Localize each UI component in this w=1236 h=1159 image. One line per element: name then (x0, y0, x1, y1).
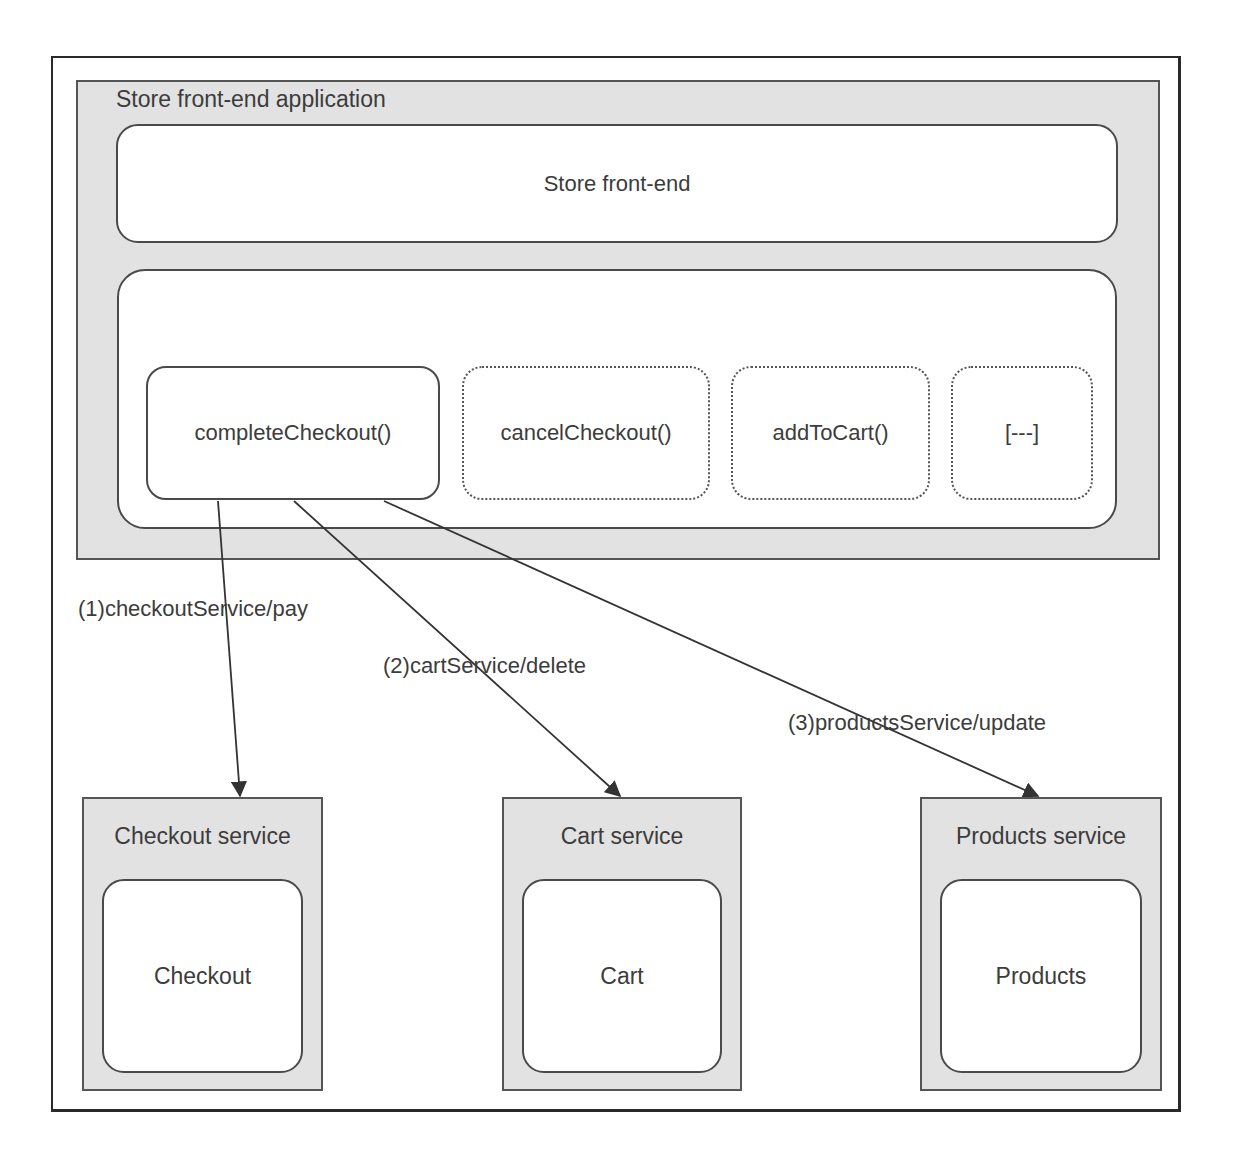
products-component: Products (940, 879, 1142, 1073)
products-service-box: Products service Products (920, 797, 1162, 1091)
function-label: [---] (1005, 420, 1039, 446)
store-frontend-box: Store front-end (116, 124, 1118, 243)
function-cancel-checkout: cancelCheckout() (462, 366, 710, 500)
app-container-title: Store front-end application (116, 86, 386, 113)
service-title: Checkout service (84, 823, 321, 850)
function-complete-checkout: completeCheckout() (146, 366, 440, 500)
cart-service-box: Cart service Cart (502, 797, 742, 1091)
store-frontend-label: Store front-end (544, 171, 691, 197)
function-label: addToCart() (772, 420, 888, 446)
call-label-cart-delete: (2)cartService/delete (383, 653, 586, 679)
checkout-component: Checkout (102, 879, 303, 1073)
function-label: cancelCheckout() (500, 420, 671, 446)
function-placeholder: [---] (951, 366, 1093, 500)
component-label: Cart (600, 963, 643, 990)
component-label: Checkout (154, 963, 251, 990)
function-label: completeCheckout() (195, 420, 392, 446)
function-add-to-cart: addToCart() (731, 366, 930, 500)
service-title: Cart service (504, 823, 740, 850)
service-title: Products service (922, 823, 1160, 850)
call-label-products-update: (3)productsService/update (788, 710, 1046, 736)
cart-component: Cart (522, 879, 722, 1073)
component-label: Products (996, 963, 1087, 990)
call-label-checkout-pay: (1)checkoutService/pay (78, 596, 308, 622)
checkout-service-box: Checkout service Checkout (82, 797, 323, 1091)
